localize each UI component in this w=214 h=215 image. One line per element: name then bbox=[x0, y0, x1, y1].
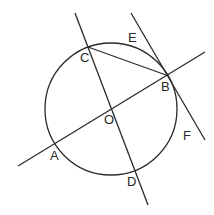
chord-CB bbox=[88, 47, 166, 75]
label-D: D bbox=[127, 174, 136, 189]
tangent-EF bbox=[131, 13, 205, 140]
label-C: C bbox=[80, 50, 89, 65]
label-O: O bbox=[104, 112, 114, 127]
geometry-diagram: C E B O A D F bbox=[0, 0, 214, 215]
label-B: B bbox=[161, 79, 170, 94]
label-E: E bbox=[128, 30, 137, 45]
label-A: A bbox=[50, 148, 59, 163]
label-F: F bbox=[183, 128, 191, 143]
